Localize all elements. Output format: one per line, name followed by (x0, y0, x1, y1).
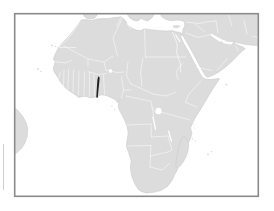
lake-victoria (156, 108, 162, 115)
inland-water-spot (109, 69, 112, 73)
locator-map-svg (0, 0, 274, 211)
map-canvas (0, 0, 274, 211)
